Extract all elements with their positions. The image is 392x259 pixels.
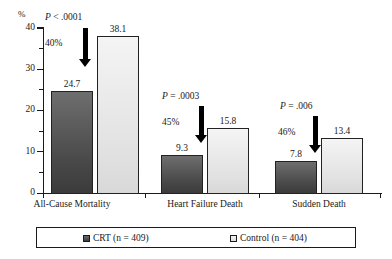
bar-control-heart-failure-death xyxy=(207,128,249,194)
bar-value-control-all-cause-mortality: 38.1 xyxy=(97,24,139,34)
bar-value-control-heart-failure-death: 15.8 xyxy=(207,116,249,126)
y-axis-label-40: 40 xyxy=(15,23,35,33)
bar-control-all-cause-mortality xyxy=(97,36,139,194)
y-tick-minor-15 xyxy=(39,131,43,132)
y-tick-30 xyxy=(37,69,43,70)
y-tick-minor-25 xyxy=(39,89,43,90)
x-tick-end xyxy=(380,193,381,198)
bar-chart: % 40 30 20 10 0 24.7 38.1 P < .0001 40% xyxy=(0,0,392,259)
y-axis-label-30: 30 xyxy=(15,64,35,74)
x-axis-category-label-sudden-death: Sudden Death xyxy=(264,199,374,210)
down-arrow-heart-failure-death xyxy=(195,106,209,144)
y-tick-40 xyxy=(37,27,43,28)
y-tick-20 xyxy=(37,110,43,111)
reduction-all-cause-mortality: 40% xyxy=(45,38,62,48)
y-axis-unit-label: % xyxy=(18,9,26,19)
legend-item-crt: CRT (n = 409) xyxy=(83,232,149,244)
bar-crt-heart-failure-death xyxy=(161,155,203,194)
x-tick-sep-1 xyxy=(145,193,146,198)
p-value-sudden-death: P = .006 xyxy=(280,101,313,111)
x-axis-category-label-all-cause-mortality: All-Cause Mortality xyxy=(24,199,120,210)
down-arrow-all-cause-mortality xyxy=(79,28,93,68)
p-value-all-cause-mortality: P < .0001 xyxy=(45,12,82,22)
bar-value-control-sudden-death: 13.4 xyxy=(321,126,363,136)
y-axis-label-0: 0 xyxy=(15,188,35,198)
bar-control-sudden-death xyxy=(321,138,363,194)
p-value-heart-failure-death: P = .0003 xyxy=(162,91,199,101)
x-tick-sep-2 xyxy=(259,193,260,198)
reduction-heart-failure-death: 45% xyxy=(162,117,179,127)
y-axis-label-20: 20 xyxy=(15,105,35,115)
legend-swatch-control-icon xyxy=(230,235,237,242)
legend-item-control: Control (n = 404) xyxy=(230,232,307,244)
x-axis-category-label-heart-failure-death: Heart Failure Death xyxy=(140,199,270,210)
down-arrow-sudden-death xyxy=(309,116,323,154)
y-axis-line xyxy=(43,27,44,194)
legend-swatch-crt-icon xyxy=(83,235,90,242)
bar-crt-all-cause-mortality xyxy=(51,91,93,194)
legend-label-crt: CRT (n = 409) xyxy=(93,233,149,243)
legend: CRT (n = 409) Control (n = 404) xyxy=(36,227,356,248)
legend-label-control: Control (n = 404) xyxy=(240,233,307,243)
y-tick-minor-5 xyxy=(39,172,43,173)
y-tick-10 xyxy=(37,151,43,152)
reduction-sudden-death: 46% xyxy=(278,127,295,137)
plot-area: % 40 30 20 10 0 24.7 38.1 P < .0001 40% xyxy=(0,0,392,259)
x-tick-origin xyxy=(43,193,44,198)
bar-value-crt-heart-failure-death: 9.3 xyxy=(161,143,203,153)
bar-value-crt-all-cause-mortality: 24.7 xyxy=(51,79,93,89)
y-axis-label-10: 10 xyxy=(15,147,35,157)
y-tick-minor-35 xyxy=(39,48,43,49)
bar-crt-sudden-death xyxy=(275,161,317,194)
